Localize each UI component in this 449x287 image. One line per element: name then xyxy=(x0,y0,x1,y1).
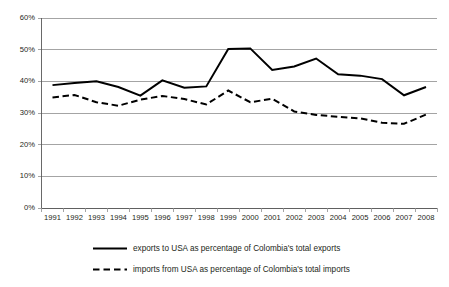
legend-label-exports: exports to USA as percentage of Colombia… xyxy=(133,244,340,253)
x-tick-label-1996: 1996 xyxy=(154,213,171,222)
x-tick-label-2008: 2008 xyxy=(418,213,435,222)
legend-label-imports: imports from USA as percentage of Colomb… xyxy=(133,265,350,274)
x-tick-label-1998: 1998 xyxy=(198,213,215,222)
x-tick-label-1992: 1992 xyxy=(66,213,83,222)
y-tick-label: 30% xyxy=(20,108,35,117)
x-tick-label-2007: 2007 xyxy=(396,213,413,222)
y-tick-label: 20% xyxy=(20,140,35,149)
x-tick-label-1994: 1994 xyxy=(110,213,127,222)
y-tick-label: 50% xyxy=(20,45,35,54)
x-tick-label-2002: 2002 xyxy=(286,213,303,222)
y-tick-label: 10% xyxy=(20,171,35,180)
y-tick-label: 0% xyxy=(24,203,35,212)
x-tick-label-2005: 2005 xyxy=(352,213,369,222)
x-tick-label-1993: 1993 xyxy=(88,213,105,222)
line-chart: 0%10%20%30%40%50%60% 1991199219931994199… xyxy=(0,0,449,287)
x-tick-label-1995: 1995 xyxy=(132,213,149,222)
x-tick-label-1997: 1997 xyxy=(176,213,193,222)
x-tick-label-1991: 1991 xyxy=(44,213,61,222)
y-tick-label: 40% xyxy=(20,76,35,85)
x-tick-label-1999: 1999 xyxy=(220,213,237,222)
x-tick-label-2004: 2004 xyxy=(330,213,347,222)
x-tick-label-2001: 2001 xyxy=(264,213,281,222)
y-tick-label: 60% xyxy=(20,13,35,22)
x-tick-label-2000: 2000 xyxy=(242,213,259,222)
x-tick-label-2006: 2006 xyxy=(374,213,391,222)
x-tick-label-2003: 2003 xyxy=(308,213,325,222)
chart-figure: 0%10%20%30%40%50%60% 1991199219931994199… xyxy=(0,0,449,287)
